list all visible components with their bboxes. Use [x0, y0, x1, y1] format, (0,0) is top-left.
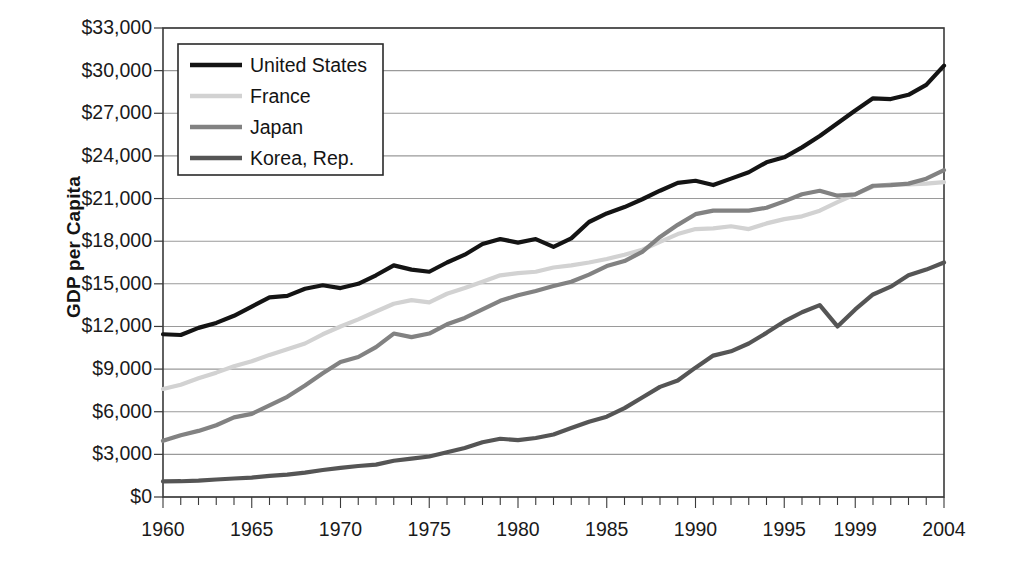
- y-tick-label: $15,000: [82, 274, 153, 294]
- x-tick-label: 1999: [834, 520, 877, 540]
- x-tick-label: 1990: [674, 520, 717, 540]
- y-tick-label: $18,000: [82, 231, 153, 251]
- legend-label-1: France: [250, 85, 311, 107]
- plot-canvas: United StatesFranceJapanKorea, Rep.: [0, 0, 1015, 564]
- y-tick-label: $12,000: [82, 316, 153, 336]
- x-tick-label: 1970: [319, 520, 362, 540]
- y-tick-label: $21,000: [82, 189, 153, 209]
- y-tick-label: $33,000: [82, 18, 153, 38]
- y-tick-label: $27,000: [82, 103, 153, 123]
- x-axis-tick-labels: 1960196519701975198019851990199519992004: [0, 506, 1015, 546]
- y-tick-label: $24,000: [82, 146, 153, 166]
- y-axis-tick-labels: $33,000$30,000$27,000$24,000$21,000$18,0…: [0, 0, 152, 564]
- x-tick-label: 1980: [496, 520, 539, 540]
- y-tick-label: $3,000: [92, 444, 152, 464]
- x-tick-label: 1975: [408, 520, 451, 540]
- legend: United StatesFranceJapanKorea, Rep.: [178, 44, 383, 175]
- legend-label-3: Korea, Rep.: [250, 147, 354, 169]
- x-tick-label: 2004: [922, 520, 965, 540]
- x-tick-label: 1965: [230, 520, 273, 540]
- y-tick-label: $30,000: [82, 61, 153, 81]
- y-tick-label: $9,000: [92, 359, 152, 379]
- legend-label-2: Japan: [250, 116, 303, 138]
- y-tick-label: $6,000: [92, 402, 152, 422]
- y-tick-label: $0: [130, 487, 152, 507]
- gdp-per-capita-line-chart: GDP per Capita $33,000$30,000$27,000$24,…: [0, 0, 1015, 564]
- x-tick-label: 1995: [763, 520, 806, 540]
- x-tick-label: 1985: [585, 520, 628, 540]
- x-tick-label: 1960: [141, 520, 184, 540]
- legend-label-0: United States: [250, 54, 367, 76]
- series-line-japan: [163, 170, 944, 441]
